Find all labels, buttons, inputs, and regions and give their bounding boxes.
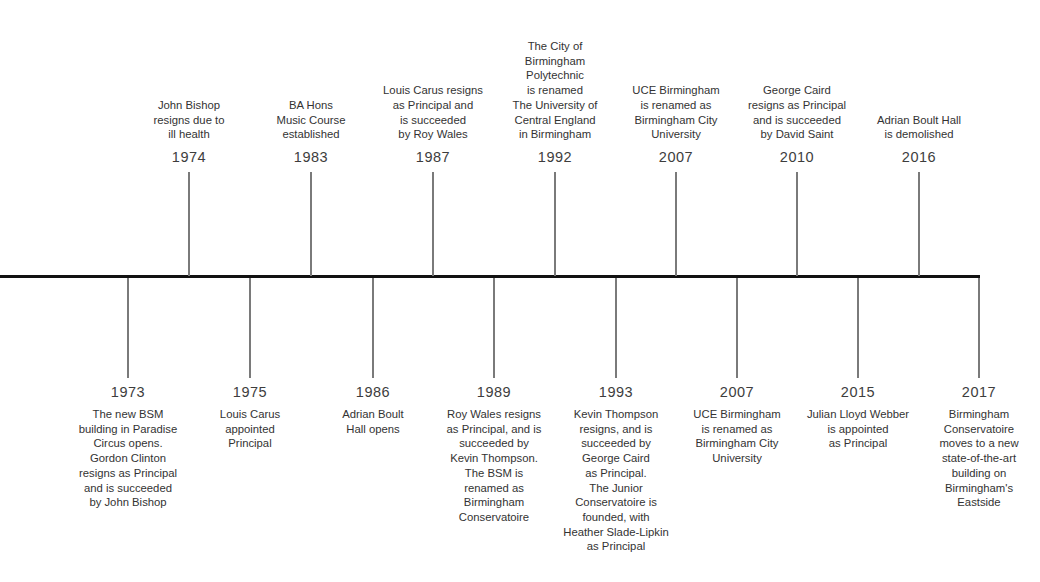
timeline-axis — [0, 275, 980, 278]
event-stem — [249, 278, 251, 378]
event-description: Adrian Boult Hall is demolished — [844, 113, 994, 142]
event-stem — [493, 278, 495, 378]
event-stem — [432, 172, 434, 276]
event-stem — [310, 172, 312, 276]
event-stem — [978, 278, 980, 378]
event-stem — [675, 172, 677, 276]
event-stem — [918, 172, 920, 276]
event-description: Birmingham Conservatoire moves to a new … — [904, 407, 1040, 510]
event-stem — [372, 278, 374, 378]
event-stem — [796, 172, 798, 276]
event-stem — [188, 172, 190, 276]
timeline-event-2016: Adrian Boult Hall is demolished 2016 — [844, 113, 994, 166]
timeline-diagram: John Bishop resigns due to ill health 19… — [0, 0, 1040, 582]
event-stem — [127, 278, 129, 378]
event-stem — [615, 278, 617, 378]
event-stem — [554, 172, 556, 276]
event-year: 2017 — [904, 383, 1040, 401]
timeline-event-2017: 2017 Birmingham Conservatoire moves to a… — [904, 383, 1040, 510]
event-stem — [736, 278, 738, 378]
event-stem — [857, 278, 859, 378]
event-year: 2016 — [844, 148, 994, 166]
